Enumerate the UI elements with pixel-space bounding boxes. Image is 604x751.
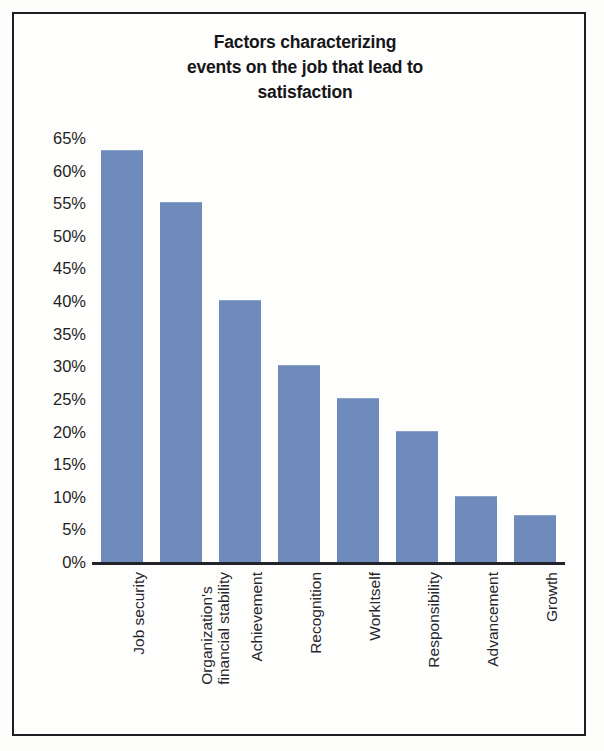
x-axis-category-label-line: Recognition — [307, 572, 324, 654]
y-axis-tick-label: 60% — [24, 161, 86, 180]
x-axis-category-label: Job security — [130, 572, 147, 655]
y-axis-tick-label: 10% — [24, 487, 86, 506]
chart-page: Factors characterizing events on the job… — [0, 0, 604, 751]
bar-series — [92, 138, 565, 562]
bar — [160, 202, 202, 562]
y-axis-tick-labels: 65%60%55%50%45%40%35%30%25%20%15%10%5%0% — [20, 0, 86, 751]
x-axis-category-label-line: Advancement — [484, 572, 501, 667]
y-axis-tick-label: 0% — [24, 553, 86, 572]
x-axis-category-label-line: WorkItself — [366, 572, 383, 641]
x-axis-category-label-line: financial stability — [215, 572, 232, 685]
y-axis-tick-label: 45% — [24, 259, 86, 278]
x-axis-category-labels: Job securityOrganization'sfinancial stab… — [92, 568, 565, 728]
bar — [514, 515, 556, 562]
bar — [455, 496, 497, 562]
y-axis-tick-label: 55% — [24, 194, 86, 213]
bar — [396, 431, 438, 562]
x-axis-category-label: Achievement — [248, 572, 265, 662]
bar — [337, 398, 379, 562]
bar — [101, 150, 143, 562]
y-axis-tick-label: 65% — [24, 129, 86, 148]
x-axis-category-label-line: Responsibility — [425, 572, 442, 668]
x-axis-category-label: Advancement — [484, 572, 501, 667]
x-axis-category-label-line: Growth — [543, 572, 560, 622]
chart-title: Factors characterizing events on the job… — [90, 30, 520, 105]
x-axis-category-label: WorkItself — [366, 572, 383, 641]
x-axis-category-label-line: Organization's — [198, 572, 215, 685]
chart-title-line-3: satisfaction — [90, 80, 520, 105]
y-axis-tick-label: 35% — [24, 324, 86, 343]
x-axis-category-label: Organization'sfinancial stability — [198, 572, 232, 685]
bar — [219, 300, 261, 562]
y-axis-tick-label: 25% — [24, 389, 86, 408]
y-axis-tick-label: 15% — [24, 455, 86, 474]
y-axis-tick-label: 50% — [24, 226, 86, 245]
y-axis-tick-label: 40% — [24, 292, 86, 311]
x-axis-category-label: Responsibility — [425, 572, 442, 668]
x-axis-category-label: Growth — [543, 572, 560, 622]
x-axis-category-label-line: Job security — [130, 572, 147, 655]
bar — [278, 365, 320, 562]
y-axis-tick-label: 20% — [24, 422, 86, 441]
y-axis-tick-label: 5% — [24, 520, 86, 539]
x-axis-category-label: Recognition — [307, 572, 324, 654]
chart-title-line-2: events on the job that lead to — [90, 55, 520, 80]
y-axis-tick-label: 30% — [24, 357, 86, 376]
x-axis-line — [92, 562, 565, 565]
x-axis-category-label-line: Achievement — [248, 572, 265, 662]
chart-title-line-1: Factors characterizing — [90, 30, 520, 55]
